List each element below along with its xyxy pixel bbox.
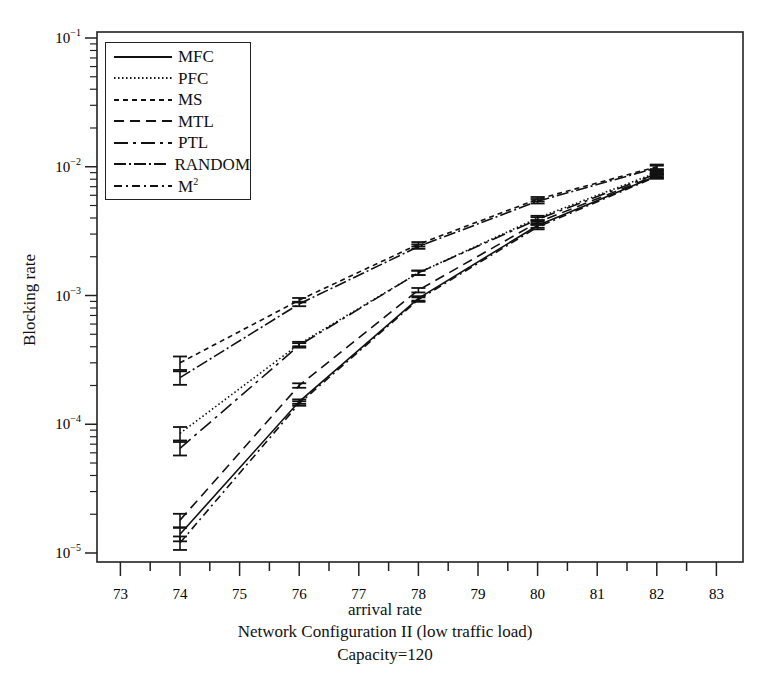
legend-line-swatch-icon <box>114 138 172 148</box>
chart-legend: MFCPFCMSMTLPTLRANDOMM2 <box>105 42 251 200</box>
legend-label: PTL <box>178 134 208 151</box>
series-line-pfc <box>180 173 657 434</box>
legend-line-swatch-icon <box>114 95 172 105</box>
y-tick-label: 10−3 <box>55 285 81 304</box>
legend-label: PFC <box>178 70 208 87</box>
x-axis-label: arrival rate <box>0 600 770 620</box>
legend-label: MTL <box>178 113 214 130</box>
series-line-ptl <box>180 174 657 448</box>
legend-line-swatch-icon <box>114 52 172 62</box>
legend-item: PTL <box>106 132 250 154</box>
legend-label: MFC <box>178 48 214 65</box>
legend-label: RANDOM <box>174 156 250 173</box>
y-tick-label: 10−4 <box>55 413 81 432</box>
legend-label: M2 <box>178 177 198 195</box>
legend-item: RANDOM <box>106 154 250 176</box>
legend-line-swatch-icon <box>114 159 168 169</box>
legend-line-swatch-icon <box>114 116 172 126</box>
legend-line-swatch-icon <box>114 181 172 191</box>
legend-item: PFC <box>106 68 250 90</box>
y-tick-label: 10−1 <box>55 27 81 46</box>
legend-item: M2 <box>106 175 250 197</box>
figure-caption-capacity: Capacity=120 <box>0 645 770 665</box>
data-series <box>173 165 664 550</box>
legend-item: MTL <box>106 111 250 133</box>
legend-label: MS <box>178 91 203 108</box>
series-line-mtl <box>180 175 657 520</box>
series-line-m2 <box>180 176 657 542</box>
figure-caption-config: Network Configuration II (low traffic lo… <box>0 622 770 642</box>
legend-item: MFC <box>106 46 250 68</box>
y-axis-label: Blocking rate <box>20 254 40 346</box>
series-line-mfc <box>180 176 657 534</box>
legend-item: MS <box>106 89 250 111</box>
y-tick-label: 10−2 <box>55 156 81 175</box>
legend-line-swatch-icon <box>114 73 172 83</box>
y-tick-label: 10−5 <box>55 542 81 561</box>
